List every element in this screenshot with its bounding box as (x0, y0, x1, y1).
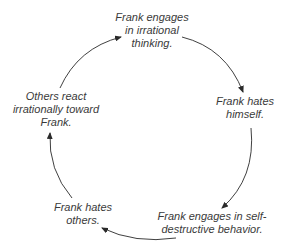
node-line: thinking. (102, 37, 202, 50)
node-self-destructive: Frank engages in self- destructive behav… (150, 210, 274, 236)
arrow-hates-himself-to-self-destructive (222, 128, 252, 208)
node-line: Frank. (6, 116, 106, 129)
node-line: destructive behavior. (150, 223, 274, 236)
node-irrational-thinking: Frank engages in irrational thinking. (102, 11, 202, 50)
node-line: others. (43, 214, 123, 227)
node-others-react: Others react irrationally toward Frank. (6, 90, 106, 129)
node-line: Frank hates (205, 95, 284, 108)
node-line: Frank hates (43, 201, 123, 214)
node-line: himself. (205, 108, 284, 121)
node-line: Others react (6, 90, 106, 103)
node-hates-others: Frank hates others. (43, 201, 123, 227)
node-line: irrationally toward (6, 103, 106, 116)
node-line: in irrational (102, 24, 202, 37)
node-hates-himself: Frank hates himself. (205, 95, 284, 121)
node-line: Frank engages in self- (150, 210, 274, 223)
cycle-diagram: Frank engages in irrational thinking. Fr… (0, 0, 284, 252)
arrow-hates-others-to-others-react (50, 133, 72, 198)
node-line: Frank engages (102, 11, 202, 24)
